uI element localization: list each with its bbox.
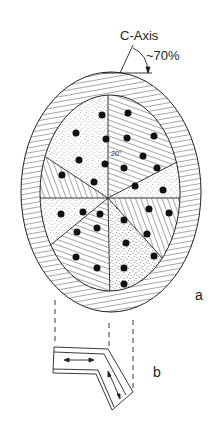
panel-a-label: a bbox=[195, 287, 203, 303]
inner-angle-label: 20° bbox=[111, 150, 122, 157]
crystal-diagram bbox=[0, 0, 216, 430]
angle-label: ~70% bbox=[146, 48, 180, 63]
panel-b-label: b bbox=[153, 364, 161, 380]
c-axis-label: C-Axis bbox=[120, 28, 158, 43]
fibre-section bbox=[53, 347, 133, 410]
